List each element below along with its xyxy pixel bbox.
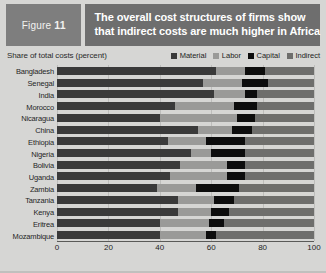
legend-item-labor: Labor <box>213 51 241 60</box>
bar-row <box>57 67 314 75</box>
category-label: Kenya <box>33 208 54 217</box>
bar-segment-material <box>57 137 168 145</box>
bar-segment-capital <box>196 184 240 192</box>
legend-label-material: Material <box>180 51 207 60</box>
bar-row <box>57 208 314 216</box>
bar-segment-capital <box>227 172 245 180</box>
bar-segment-capital <box>209 219 224 227</box>
bar-segment-labor <box>216 67 244 75</box>
gridline-100 <box>314 65 315 241</box>
bar-segment-indirect <box>245 161 314 169</box>
legend-item-indirect: Indirect <box>287 51 320 60</box>
bar-segment-material <box>57 184 157 192</box>
category-label: Nigeria <box>31 150 54 159</box>
bar-segment-indirect <box>245 137 314 145</box>
bar-segment-material <box>57 208 178 216</box>
bar-segment-capital <box>242 79 268 87</box>
bar-segment-material <box>57 102 175 110</box>
bar-row <box>57 196 314 204</box>
bar-segment-capital <box>232 126 253 134</box>
bar-segment-indirect <box>239 184 314 192</box>
category-label: India <box>38 91 54 100</box>
figure-tag-number: 11 <box>54 19 66 31</box>
bar-row <box>57 231 314 239</box>
bar-segment-labor <box>178 208 211 216</box>
bar-segment-labor <box>157 184 196 192</box>
bar-segment-capital <box>237 114 255 122</box>
bar-segment-labor <box>214 90 245 98</box>
bar-row <box>57 79 314 87</box>
axis-units-label: Share of total costs (percent) <box>7 51 107 60</box>
bar-segment-capital <box>245 67 266 75</box>
legend-swatch-labor <box>213 53 219 59</box>
bar-segment-material <box>57 90 214 98</box>
figure-tag-label: Figure <box>22 20 52 31</box>
bar-segment-material <box>57 172 170 180</box>
x-axis-tick-labels: 020406080100 <box>57 243 314 255</box>
bar-segment-indirect <box>257 102 314 110</box>
legend-label-capital: Capital <box>257 51 280 60</box>
bar-segment-labor <box>178 196 214 204</box>
bar-segment-capital <box>211 208 229 216</box>
bar-segment-indirect <box>234 196 314 204</box>
figure-panel: Figure 11 The overall cost structures of… <box>0 0 326 273</box>
x-tick-label: 100 <box>307 243 320 252</box>
bar-segment-capital <box>227 161 245 169</box>
category-label: Morocco <box>26 103 54 112</box>
bar-segment-material <box>57 79 203 87</box>
x-axis-line <box>57 241 314 242</box>
legend-label-indirect: Indirect <box>295 51 320 60</box>
bar-segment-capital <box>245 90 258 98</box>
bar-segment-capital <box>206 137 245 145</box>
category-label: Uganda <box>29 173 54 182</box>
bar-segment-material <box>57 196 178 204</box>
bar-segment-indirect <box>257 90 314 98</box>
category-label: Mozambique <box>13 232 54 241</box>
figure-title: The overall cost structures of firms sho… <box>85 4 320 46</box>
x-tick-label: 60 <box>207 243 216 252</box>
bar-segment-material <box>57 219 160 227</box>
bar-row <box>57 102 314 110</box>
bar-segment-indirect <box>245 149 314 157</box>
x-tick-label: 40 <box>155 243 164 252</box>
legend-swatch-capital <box>248 53 254 59</box>
bar-segment-indirect <box>245 172 314 180</box>
bar-segment-labor <box>180 161 226 169</box>
category-label: Eritrea <box>33 220 54 229</box>
bar-segment-material <box>57 231 160 239</box>
figure-number-tag: Figure 11 <box>6 4 81 46</box>
bar-segment-indirect <box>255 114 314 122</box>
bar-segment-labor <box>160 231 206 239</box>
category-label: China <box>35 126 54 135</box>
category-label: Senegal <box>28 79 54 88</box>
bar-segment-material <box>57 126 198 134</box>
bar-segment-material <box>57 114 160 122</box>
figure-title-line-1: The overall cost structures of firms sho… <box>94 10 320 24</box>
category-label: Zambia <box>30 185 54 194</box>
bar-segment-indirect <box>268 79 314 87</box>
plot-area <box>57 65 314 241</box>
bar-segment-capital <box>234 102 257 110</box>
bar-segment-labor <box>160 219 209 227</box>
bar-segment-capital <box>211 149 244 157</box>
bar-segment-indirect <box>252 126 314 134</box>
legend-label-labor: Labor <box>222 51 241 60</box>
category-label: Bolivia <box>33 161 54 170</box>
bar-segment-labor <box>175 102 234 110</box>
category-label: Bangladesh <box>16 67 54 76</box>
bar-row <box>57 149 314 157</box>
legend-swatch-material <box>171 53 177 59</box>
bar-segment-indirect <box>216 231 314 239</box>
legend-item-material: Material <box>171 51 206 60</box>
category-axis-labels: BangladeshSenegalIndiaMoroccoNicaraguaCh… <box>0 65 54 241</box>
legend-item-capital: Capital <box>248 51 280 60</box>
bar-segment-capital <box>214 196 235 204</box>
category-label: Nicaragua <box>21 114 54 123</box>
chart-legend: Material Labor Capital Indirect <box>171 51 320 60</box>
x-tick-label: 80 <box>258 243 267 252</box>
bar-segment-indirect <box>224 219 314 227</box>
bar-segment-labor <box>203 79 242 87</box>
figure-title-line-2: that indirect costs are much higher in A… <box>94 24 320 38</box>
bar-segment-labor <box>198 126 231 134</box>
bar-row <box>57 114 314 122</box>
